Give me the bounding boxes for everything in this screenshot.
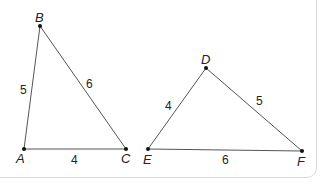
side-df-length: 5 [256, 94, 263, 108]
vertex-e-dot [146, 147, 150, 151]
vertex-f-dot [300, 149, 304, 153]
vertex-b-label: B [35, 10, 44, 25]
side-df [206, 68, 302, 151]
side-ab-length: 5 [20, 83, 27, 97]
triangle-def: D E F 4 5 6 [143, 52, 306, 169]
vertex-e-label: E [143, 152, 152, 167]
vertex-f-label: F [297, 154, 306, 169]
side-ef-length: 6 [222, 153, 229, 167]
side-bc-length: 6 [86, 77, 93, 91]
vertex-a-label: A [15, 151, 25, 166]
vertex-d-label: D [201, 52, 210, 67]
side-bc [40, 26, 126, 149]
side-de [148, 68, 206, 149]
side-de-length: 4 [165, 99, 172, 113]
triangles-diagram: A B C 5 6 4 D E F 4 5 6 [0, 0, 320, 184]
triangle-abc: A B C 5 6 4 [15, 10, 131, 167]
vertex-c-label: C [121, 151, 131, 166]
side-ac-length: 4 [71, 153, 78, 167]
side-ef [148, 149, 302, 151]
